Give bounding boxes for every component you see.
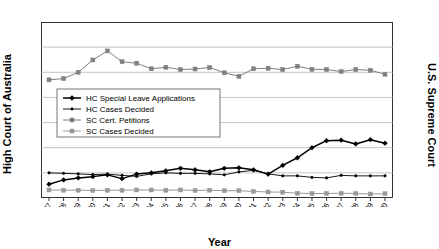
data-point [339,191,343,195]
data-point [384,175,387,178]
data-point [237,74,241,78]
data-point [208,66,212,70]
data-point [252,169,255,172]
x-axis-tick: 1984 [139,201,156,207]
data-point [369,175,372,178]
x-axis-tick: 1995 [300,201,317,207]
data-point [310,67,314,71]
data-point [208,173,211,176]
x-axis-tick: 1998 [343,201,360,207]
y-axis-right-title: U.S. Supreme Court [426,22,438,207]
data-point [47,78,51,82]
x-axis-tick: 1991 [241,201,258,207]
data-point [252,67,256,71]
data-point [354,191,358,195]
data-point [252,189,256,193]
data-point [47,188,51,192]
data-point [71,108,74,111]
data-point [91,58,95,62]
data-point [62,188,66,192]
data-point [150,173,153,176]
data-point [310,191,314,195]
x-axis-title: Year [0,236,439,248]
x-axis-tick: 1989 [212,201,229,207]
x-axis-tick: 1988 [197,201,214,207]
data-point [267,173,270,176]
x-axis-tick: 1981 [95,201,112,207]
x-axis-tick: 1983 [124,201,141,207]
x-axis-tick: 1994 [285,201,302,207]
x-axis-tick: 1986 [168,201,185,207]
data-point [383,192,387,196]
x-axis-tick: 1992 [256,201,273,207]
x-axis-tick: 1977 [41,201,54,207]
data-point [295,191,299,195]
data-point [223,174,226,177]
data-point [325,68,329,72]
data-point [325,191,329,195]
data-point [179,172,182,175]
data-point [222,189,226,193]
data-point [296,175,299,178]
data-point [70,118,74,122]
data-point [164,65,168,69]
data-point [208,188,212,192]
x-axis-tick: 1982 [110,201,127,207]
data-point [266,190,270,194]
data-point [238,171,241,174]
data-point [70,129,74,133]
chart-legend: HC Special Leave ApplicationsHC Cases De… [57,89,220,137]
chart-container: High Court of Australia U.S. Supreme Cou… [0,0,439,249]
data-point [295,64,299,68]
x-axis-tick: 1987 [183,201,200,207]
data-point [383,72,387,76]
data-point [92,173,95,176]
x-axis-tick: 1979 [66,201,83,207]
data-point [178,68,182,72]
x-axis-tick: 1978 [51,201,68,207]
data-point [178,188,182,192]
data-point [281,68,285,72]
legend-item-label: HC Cases Decided [86,105,154,114]
data-point [222,71,226,75]
data-point [91,188,95,192]
data-point [120,188,124,192]
data-point [135,175,138,178]
data-point [76,70,80,74]
data-point [325,177,328,180]
data-point [368,68,372,72]
data-point [105,188,109,192]
data-point [135,61,139,65]
plot-area: 0100200300400500600700050010001500200025… [41,15,393,207]
data-point [149,67,153,71]
data-point [106,173,109,176]
x-axis-tick: 1996 [314,201,331,207]
data-point [368,192,372,196]
data-point [354,175,357,178]
data-point [135,188,139,192]
data-point [149,188,153,192]
legend-item-label: HC Special Leave Applications [86,94,195,103]
data-point [77,173,80,176]
data-point [164,188,168,192]
data-point [120,60,124,64]
x-axis-tick: 1990 [227,201,244,207]
data-point [237,189,241,193]
data-point [339,70,343,74]
x-axis-tick: 1997 [329,201,346,207]
data-point [354,68,358,72]
data-point [193,188,197,192]
x-axis-tick: 1985 [154,201,171,207]
data-point [193,67,197,71]
legend-item-label: SC Cases Decided [86,127,154,136]
data-point [281,190,285,194]
data-point [62,172,65,175]
x-axis-tick: 2000 [373,201,390,207]
legend-item-label: SC Cert. Petitions [86,116,150,125]
data-point [194,172,197,175]
data-point [266,66,270,70]
x-axis-tick: 1999 [358,201,375,207]
chart-svg: 0100200300400500600700050010001500200025… [41,15,393,207]
data-point [105,49,109,53]
x-axis-tick: 1980 [81,201,98,207]
